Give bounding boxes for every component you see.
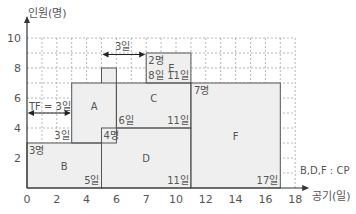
x-tick-label: 0 (24, 193, 31, 206)
tf-annotation: TF = 3일 (28, 101, 71, 112)
label-B-workers: 3명 (29, 145, 44, 156)
x-tick-label: 16 (258, 193, 272, 206)
x-tick-label: 4 (83, 193, 90, 206)
x-tick-label: 6 (113, 193, 120, 206)
y-tick-label: 10 (7, 32, 21, 45)
label-E-workers: 2명 (148, 55, 163, 66)
label-E-start: 8일 (148, 70, 163, 81)
x-tick-label: 14 (229, 193, 243, 206)
y-tick-label: 4 (14, 122, 21, 135)
label-F-workers: 7명 (194, 85, 209, 96)
x-tick-label: 18 (288, 193, 302, 206)
y-axis-title: 인원(명) (28, 7, 67, 20)
x-tick-label: 2 (53, 193, 60, 206)
float-annotation: 3일 (115, 41, 130, 52)
label-B-name: B (61, 161, 68, 172)
x-axis-title: 공기(일) (312, 189, 351, 203)
label-A-name: A (91, 101, 98, 112)
label-F-name: F (233, 131, 239, 142)
x-axis-arrow-icon (302, 185, 309, 191)
y-tick-label: 8 (14, 62, 21, 75)
x-tick-label: 12 (199, 193, 213, 206)
label-D-end: 11일 (167, 175, 189, 186)
y-tick-label: 2 (14, 152, 21, 165)
label-D-workers: 4명 (104, 130, 119, 141)
label-E-end: 11일 (167, 70, 189, 81)
x-tick-label: 7 (143, 193, 150, 206)
x-tick-label: 10 (169, 193, 183, 206)
label-B-end: 5일 (84, 175, 99, 186)
cp-annotation: B,D,F : CP (300, 165, 349, 176)
float-arrow-left-icon (103, 52, 109, 58)
label-C-name: C (150, 93, 157, 104)
label-C-start: 6일 (118, 115, 133, 126)
resource-histogram-chart: 0246710121416182468103명B5일3일A4명D11일6일C11… (0, 0, 356, 214)
float-arrow-right-icon (139, 52, 145, 58)
label-F-end: 17일 (257, 175, 279, 186)
label-D-name: D (142, 153, 150, 164)
y-tick-label: 6 (14, 92, 21, 105)
label-A-start: 3일 (54, 130, 69, 141)
label-C-end: 11일 (167, 115, 189, 126)
